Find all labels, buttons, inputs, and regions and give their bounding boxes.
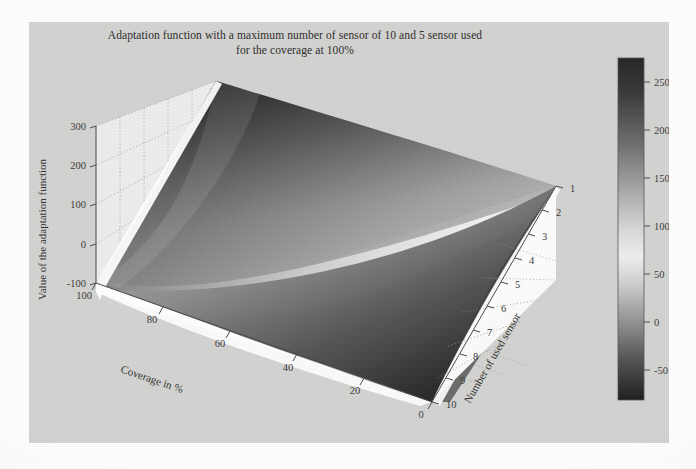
x-tick-0: 0 <box>418 409 423 420</box>
y-tick-7: 7 <box>487 327 492 338</box>
z-tick-300: 300 <box>70 121 86 132</box>
x-tick-80: 80 <box>147 314 158 325</box>
y-tick-3: 3 <box>542 231 547 242</box>
x-tick-20: 20 <box>350 385 361 396</box>
y-tick-8: 8 <box>473 351 478 362</box>
colorbar-tick-0: 0 <box>654 317 659 328</box>
x-tick-100: 100 <box>76 290 92 301</box>
colorbar-tick-150: 150 <box>654 173 670 184</box>
surface-plot: 300 200 100 0 -100 Value of the adaptati… <box>0 0 696 469</box>
colorbar-tick-50: 50 <box>654 269 665 280</box>
y-tick-6: 6 <box>501 303 506 314</box>
colorbar-tick-100: 100 <box>654 221 670 232</box>
y-tick-10: 10 <box>446 399 457 410</box>
y-tick-9: 9 <box>460 375 465 386</box>
x-axis-label: Coverage in % <box>119 363 185 396</box>
z-tick-neg100: -100 <box>67 278 86 289</box>
colorbar-tick-200: 200 <box>654 125 670 136</box>
y-tick-1: 1 <box>570 183 575 194</box>
colorbar-tick-neg50: -50 <box>654 365 668 376</box>
y-tick-2: 2 <box>556 207 561 218</box>
y-tick-5: 5 <box>515 279 520 290</box>
z-tick-0: 0 <box>81 239 86 250</box>
z-axis: 300 200 100 0 -100 Value of the adaptati… <box>36 121 96 300</box>
figure-canvas: Adaptation function with a maximum numbe… <box>0 0 696 469</box>
colorbar-gradient <box>618 58 644 400</box>
y-tick-4: 4 <box>529 255 535 266</box>
z-tick-200: 200 <box>70 160 86 171</box>
z-tick-100: 100 <box>70 199 86 210</box>
z-axis-label: Value of the adaptation function <box>36 158 48 300</box>
colorbar: 250 200 150 100 50 0 -50 <box>618 58 670 400</box>
x-tick-40: 40 <box>283 362 294 373</box>
x-tick-60: 60 <box>215 338 226 349</box>
colorbar-tick-250: 250 <box>654 77 670 88</box>
